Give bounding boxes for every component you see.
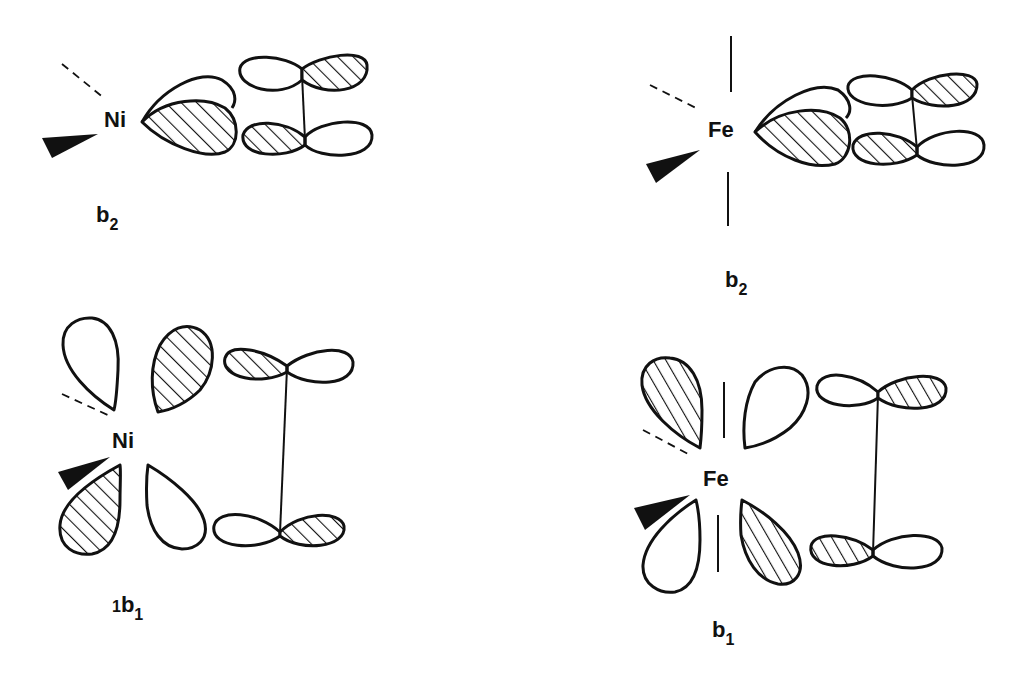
orbital-interaction-diagram: Ni b2 Fe b2 Ni: [0, 0, 1009, 677]
metal-atom-label: Fe: [703, 466, 729, 491]
wedge-bond: [646, 150, 700, 183]
d-lobe-open-upper-left: [63, 318, 118, 410]
metal-atom-label: Fe: [708, 117, 734, 142]
pi-lobe-open-lower: [873, 535, 942, 568]
panel-fe-b2: Fe b2: [646, 36, 984, 298]
pi-lobe-hatched-lower: [811, 536, 873, 566]
c-c-bond: [873, 395, 878, 553]
pi-lobe-hatched-lower: [280, 515, 344, 545]
pi-lobe-open-lower: [214, 515, 280, 546]
panel-ni-b2: Ni b2: [42, 55, 372, 233]
symmetry-label: b2: [725, 267, 747, 298]
c-c-bond: [280, 368, 287, 533]
pi-lobe-open-upper: [848, 76, 912, 106]
d-orbital-hatched-lobe: [755, 110, 850, 165]
pi-lobe-open-upper: [240, 57, 302, 90]
d-lobe-open-upper-right: [744, 367, 808, 448]
d-lobe-hatched-upper-left: [642, 358, 702, 448]
d-orbital-hatched-lobe: [142, 101, 236, 154]
pi-lobe-hatched-upper: [302, 55, 367, 90]
metal-atom-label: Ni: [104, 107, 126, 132]
wedge-bond: [634, 495, 690, 530]
wedge-bond: [42, 134, 98, 158]
d-lobe-hatched-lower-right: [741, 500, 801, 584]
symmetry-label: b2: [96, 202, 118, 233]
symmetry-label: 1b1: [112, 592, 143, 623]
d-lobe-hatched-upper-right: [152, 326, 212, 412]
pi-lobe-hatched-lower: [243, 123, 305, 154]
pi-lobe-open-lower: [917, 131, 984, 165]
pi-lobe-hatched-upper: [225, 349, 287, 379]
pi-lobe-hatched-upper: [912, 74, 977, 106]
d-lobe-open-lower-right: [147, 465, 206, 549]
dashed-bond: [62, 64, 104, 98]
pi-lobe-open-upper: [817, 375, 878, 405]
dashed-bond: [62, 394, 112, 417]
dashed-bond: [650, 85, 700, 110]
symmetry-label: b1: [712, 617, 734, 648]
panel-fe-b1: Fe b1: [634, 358, 946, 648]
pi-lobe-hatched-lower: [853, 133, 917, 164]
pi-lobe-open-lower: [305, 122, 372, 155]
panel-ni-1b1: Ni 1b1: [58, 318, 353, 623]
c-c-bond: [912, 95, 917, 150]
pi-lobe-open-upper: [287, 350, 353, 382]
metal-atom-label: Ni: [112, 428, 134, 453]
c-c-bond: [302, 75, 305, 140]
pi-lobe-hatched-upper: [878, 376, 946, 408]
